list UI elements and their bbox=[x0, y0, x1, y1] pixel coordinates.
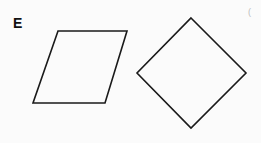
shapes-canvas bbox=[0, 0, 261, 143]
diamond-shape bbox=[137, 18, 246, 128]
parallelogram-shape bbox=[33, 31, 127, 103]
